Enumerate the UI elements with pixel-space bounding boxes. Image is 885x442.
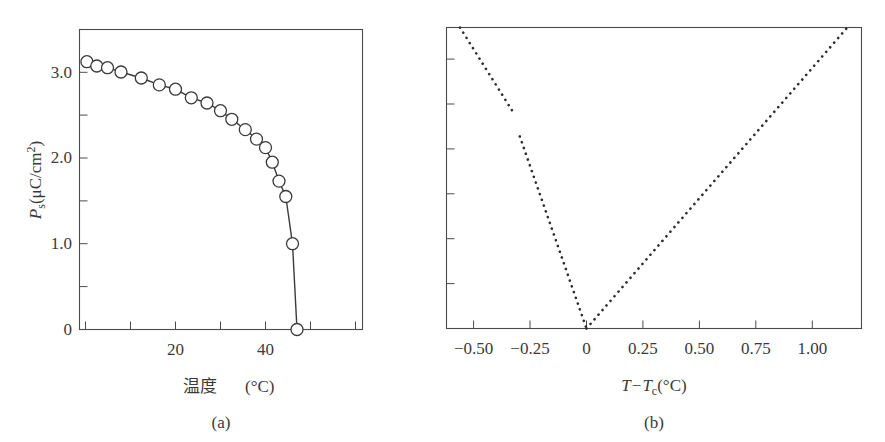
svg-text:Ps(μC/cm2): Ps(μC/cm2) [24,141,48,220]
panel-a-caption: (a) [212,413,231,432]
svg-text:T−Tc(°C): T−Tc(°C) [621,376,686,398]
panel-a-point [226,113,238,125]
panel-a-ytick-0: 0 [64,320,73,339]
panel-a-ylabel-close: ) [26,141,45,147]
panel-a-ytick-2: 2.0 [51,148,72,167]
panel-b-xlabel-unit: (°C) [657,376,686,395]
panel-a-point [273,175,285,187]
panel-a-point [153,79,165,91]
panel-a-ylabel-P: P [26,209,45,220]
panel-a-ylabel-unit: (μC/cm [26,153,45,205]
panel-a-xtick-20: 20 [167,340,184,359]
panel-a-ytick-3: 3.0 [51,63,72,82]
panel-a-y-ticks [80,72,88,329]
panel-a-point [260,142,272,154]
panel-a-series [81,56,303,336]
panel-b-branch-above [587,28,848,329]
panel-a-y-ticklabels: 0 1.0 2.0 3.0 [51,63,72,339]
panel-a: 0 1.0 2.0 3.0 20 40 Ps(μC/cm2) 温度 (°C) [0,0,443,442]
panel-b-xtick-4: 0.50 [685,339,715,358]
panel-b-x-ticks [474,321,813,329]
panel-b-frame [447,28,862,329]
panel-b-y-ticks [447,59,455,328]
panel-a-point [102,62,114,74]
panel-b: 0 5 10 15 20 25 30 −0.50 −0.25 0 0.25 0.… [443,0,885,442]
panel-b-branch-below-lower [520,136,587,328]
panel-a-point [239,124,251,136]
panel-a-point [135,72,147,84]
figure-container: 0 1.0 2.0 3.0 20 40 Ps(μC/cm2) 温度 (°C) [0,0,885,442]
panel-a-point [170,83,182,95]
panel-a-point [201,97,213,109]
panel-b-xtick-2: 0 [582,339,591,358]
panel-b-xlabel: T−Tc(°C) [621,376,686,398]
panel-a-ylabel: Ps(μC/cm2) [24,141,48,220]
panel-b-caption: (b) [644,413,664,432]
panel-a-x-ticklabels: 20 40 [167,340,274,359]
panel-a-point [91,60,103,72]
panel-b-xtick-1: −0.25 [510,339,549,358]
panel-a-xlabel-unit: (°C) [245,377,274,396]
panel-a-x-ticks [86,322,356,330]
panel-a-point [266,156,278,168]
panel-a-point [291,324,303,336]
panel-a-xlabel: 温度 (°C) [183,376,274,396]
panel-b-series [460,28,847,329]
panel-a-ytick-1: 1.0 [51,234,72,253]
panel-b-xlabel-T: T [621,376,632,395]
panel-a-xlabel-jp: 温度 [183,376,217,396]
panel-b-svg: 0 5 10 15 20 25 30 −0.50 −0.25 0 0.25 0.… [443,0,885,442]
panel-b-xtick-5: 0.75 [741,339,771,358]
panel-a-point [287,238,299,250]
panel-b-xtick-6: 1.00 [797,339,827,358]
panel-a-point [215,105,227,117]
panel-b-xlabel-minus: − [632,376,642,395]
panel-b-x-ticklabels: −0.50 −0.25 0 0.25 0.50 0.75 1.00 [454,339,827,358]
panel-b-xtick-3: 0.25 [628,339,658,358]
panel-a-xtick-40: 40 [257,340,274,359]
panel-b-branch-below-upper [460,28,512,111]
panel-a-svg: 0 1.0 2.0 3.0 20 40 Ps(μC/cm2) 温度 (°C) [0,0,443,442]
panel-a-point [115,66,127,78]
panel-a-point [185,92,197,104]
panel-b-xtick-0: −0.50 [454,339,493,358]
panel-a-point [280,191,292,203]
